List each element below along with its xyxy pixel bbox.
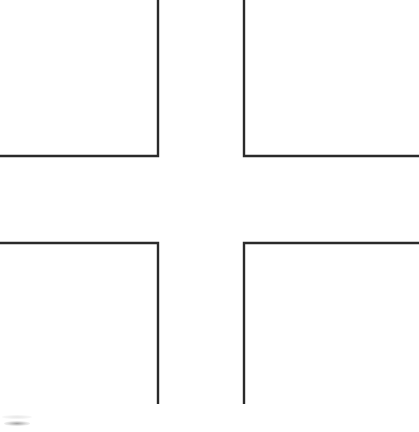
cross-line-drawing: [0, 0, 419, 432]
page-background: [0, 0, 419, 432]
figure-canvas: Cross formed by four L-shaped corner bra…: [0, 0, 419, 432]
